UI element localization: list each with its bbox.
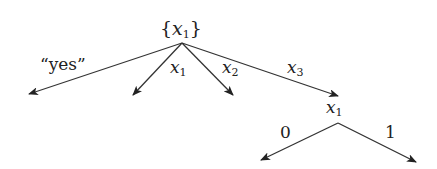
edge-label-x3: x3 xyxy=(287,59,304,78)
edge-label-yes: “yes” xyxy=(40,56,86,73)
child-node-label: x1 xyxy=(326,99,343,118)
edge-label-0: 0 xyxy=(280,124,291,141)
edge-label-1: 1 xyxy=(385,124,396,141)
close-brace: } xyxy=(190,17,202,39)
edge-1 xyxy=(338,123,416,162)
edge-0 xyxy=(261,123,338,160)
root-sub: 1 xyxy=(183,28,190,41)
open-brace: { xyxy=(160,17,172,39)
edge-label-x2: x2 xyxy=(222,59,239,78)
tree-edges xyxy=(0,0,437,169)
root-node-label: {x1} xyxy=(160,19,202,40)
root-var: x xyxy=(172,17,183,39)
edge-label-x1: x1 xyxy=(170,59,187,78)
edge-x3 xyxy=(182,43,338,96)
decision-tree-diagram: {x1} “yes” x1 x2 x3 x1 0 1 xyxy=(0,0,437,169)
